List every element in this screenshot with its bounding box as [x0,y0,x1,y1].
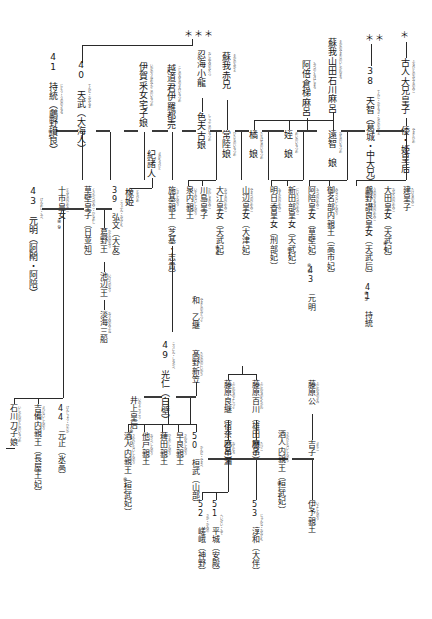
ruby-heizei: へいぜい・あて [219,514,222,535]
ruby-shikobuko: しこぶこのいらつめ [207,114,210,141]
marriage-tenji-mei [297,130,317,132]
ruby-soga-akae: そがのあかえ [232,54,235,72]
node-mei-no-iratsume: 姪 娘 [283,130,292,158]
marker-double-star: ＊＊ [365,31,385,44]
marriage-tenji-tachibana [262,130,284,132]
node-gemmei: 43 元明（阿閇・阿陪） [28,186,37,297]
stem-kobun-toochi [104,210,105,228]
ruby-fujiwara-kimi: ふじわらのきみ [315,382,318,403]
marriage-tenji-ochi [341,130,365,132]
node-shikobuko-no-iratsume: 色夫古娘 [196,112,205,150]
connector-niigasa-stem [196,382,197,396]
marker-single-star: ＊ [400,28,410,41]
node-fujiwara-kimi: 藤原公 [306,380,314,405]
node-takano-niigasa: 髙野新笠 [190,350,198,384]
ruby-koshi-no-michi: こしのみちのきみいらつめ [177,66,180,102]
node-temmu: 40 天武（大海人） [76,60,85,153]
ruby-tochihime: とちひめ [135,190,138,202]
fork-fujiwara-left [228,374,229,380]
connector-to-mei [289,120,290,130]
fork-fujiwara-brothers [228,374,256,375]
node-sakahito-naishinno-kammu: 酒人内親王（桓武妃） [276,430,284,514]
ruby-izumi: いずみないしんのう [193,188,196,215]
footnote-uno-sarara: ※5 [363,290,368,302]
ruby-iga-uneme: いがのうねめやかこのいらつめ [149,64,152,106]
node-yamato-hime-kogo: 倭・姫皇后 [400,126,409,173]
ruby-ochi: おちのいらつめ [338,132,341,153]
ruby-tenji: てんじ・かずらき・なかのおおえ [376,90,379,135]
ruby-sakahito: さかひとないしんのう [131,434,134,464]
ruby-takano-niigasa: たかののにいがさ [199,352,202,376]
ruby-yamato-hime: やまとひめ [411,128,414,143]
node-oshiumi-no-otatsu: 忍海小龍 [196,50,205,88]
ruby-temmu: てんむ・おおあま [87,84,90,108]
footnote-gemmei: ※6 [28,248,33,260]
footnote-toochi: ※9 [56,218,61,230]
node-abe-himemiko: 阿陪皇女（草壁妃） 43 元明 [306,186,314,311]
node-yamabe-himemiko: 山辺皇女（大津妃） [240,186,248,262]
node-ki-no-morohito: 紀諸人 [146,150,155,178]
marriage-tenji-hitachi [235,130,249,132]
marriage-koshi-line [152,130,168,132]
connector-ikebe-to-mifune [104,300,105,310]
ruby-furuhito: ふるひとのおおえのみこ [411,60,414,93]
node-heizei: 51 平城（安殿） [210,500,218,575]
connector-triple-star-right [192,39,193,46]
marriage-line-left-end [182,130,196,132]
node-iyo-shinno: 伊予親王 [306,500,314,534]
node-asuka-himemiko: 明日香皇女（刑部妃） [268,186,276,270]
ruby-abe-himemiko: あへのひめみこ [315,188,318,209]
connector-tachibana-stem [254,120,255,130]
footnote-ota: ※4 [382,240,387,252]
stem-koshi-children [172,132,173,180]
connector-morohito-tochihime-horizontal [130,188,152,189]
fork-tenji-yamatohime [356,180,406,181]
fork-sakahito [128,424,129,432]
ruby-fujiwara-momokawa: ふじわらのももかわ [259,382,262,409]
fork-takeru [356,180,357,186]
node-hitachi-no-iratsume: 常陸娘 [221,130,230,158]
connector-momokawa-to-tabiko [256,420,257,440]
fork-kammu [196,424,197,432]
connector-to-ochi [333,120,334,130]
node-tachibana-no-iratsume: 橘 娘 [248,130,257,158]
node-nota-shinno: 薭田親王 [158,432,166,466]
stem-iga-children [144,132,145,180]
ruby-oshiumi: おしぬみのおたつ [207,52,210,76]
node-izumi-naishinno: 泉内親王 [184,186,192,220]
stem-shiki-to-konin [172,246,173,332]
stem-kusakabe-gemmei-children [63,210,64,398]
node-sakahito-naishinno: 酒人内親王（桓武妃） [122,432,130,516]
node-kobun: 39 弘文（大友） [110,186,118,261]
ruby-sawara: さわらしんのう [183,434,186,455]
stem-konin-children [168,398,169,424]
ruby-ki-no-morohito: きのもろひと [157,152,160,170]
ruby-otomuro: おとむろ [231,442,234,454]
ruby-kammu: かんむ・やまべ [199,446,202,467]
ruby-kawashima: かわしまのみこ [207,188,210,209]
node-ikebe-o: 池辺王 [98,272,106,297]
fork-heizei [216,492,217,500]
fork-nota [162,424,163,432]
node-saga: 52 嵯峨（神野） [196,500,204,575]
ruby-katsurano-o: かどののおう [107,230,110,248]
stem-temmu-jito-children [82,132,83,180]
ruby-oe: おおえのひめみこ [223,188,226,212]
stem-hitachi-children [241,132,242,180]
node-tochihime: 橡姫 [124,188,133,207]
ruby-jito: じとう・うののさらら [59,84,62,114]
node-kichiko: 吉子 [306,440,314,457]
ruby-hitachi: ひたちのいらつめ [232,132,235,156]
node-sawara-shinno: 早良親王 [174,432,182,466]
fork-ochi-children [309,180,347,181]
connector-akae-to-hitachi [227,100,228,130]
footnote-sakahito-kammu: ※12 [276,480,281,498]
node-furuhito-no-oe: 古人大兄皇子 [400,58,409,114]
ruby-abe-kurahashimaro: あべのくらはしまろ [312,62,315,89]
ruby-soga-yamada: そがのやまだのいしかわまろ [338,40,341,79]
ruby-osabe: おさべしんのう [149,434,152,455]
ruby-iyo: いよしんのう [315,502,318,520]
node-kawashima-no-miko: 川島皇子 [198,186,206,220]
node-uno-sarara-himemiko: 鸕野讃良皇女（天武后） 41 持統 [363,186,371,328]
fork-fujiwara-right [256,374,257,380]
